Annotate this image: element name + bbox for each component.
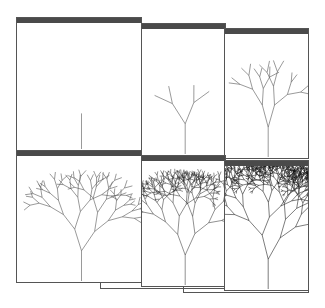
tree-graphic [142,161,225,286]
tree-canvas [142,161,225,286]
tree-canvas [142,29,225,155]
tree-graphic [225,34,308,158]
window-iteration-4[interactable] [16,150,142,283]
tree-graphic [17,156,141,282]
tree-graphic [17,23,141,150]
tree-graphic [142,29,225,155]
tree-canvas [17,156,141,282]
window-iteration-6[interactable] [224,160,309,291]
window-iteration-5[interactable] [141,155,226,287]
window-iteration-3[interactable] [224,28,309,159]
tree-graphic [225,166,308,290]
window-iteration-2[interactable] [141,23,226,156]
tree-canvas [17,23,141,150]
tree-canvas [225,34,308,158]
tree-canvas [225,166,308,290]
window-iteration-1[interactable] [16,17,142,151]
